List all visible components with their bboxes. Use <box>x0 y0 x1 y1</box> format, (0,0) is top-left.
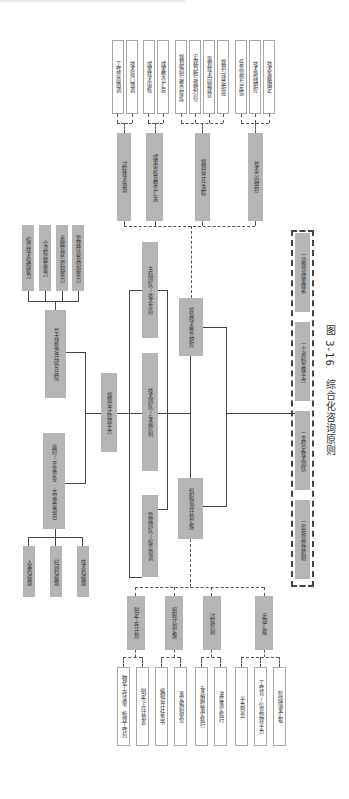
connector <box>202 123 203 133</box>
top-leaf: 宏观判断与规划引导 <box>189 40 201 114</box>
connector <box>82 537 83 546</box>
client-box: 政府/开发企业 大型建设项目 <box>43 433 65 529</box>
connector <box>279 657 280 667</box>
connector <box>62 291 63 301</box>
mgmt-team-box: 管理团队/综合协调 <box>142 495 158 577</box>
platform-box: 规划设计管理平台 <box>101 373 117 452</box>
connector <box>223 114 224 123</box>
connector <box>85 413 101 414</box>
institute-capability: 全过程统筹能力 <box>39 225 51 291</box>
figure-number: 图 3-16 <box>324 325 335 367</box>
connector <box>129 290 142 291</box>
connector <box>129 290 130 578</box>
connector <box>129 577 142 578</box>
connector <box>202 221 203 226</box>
top-leaf: 任务监管与反馈 <box>235 40 247 114</box>
connector <box>132 114 133 123</box>
branch-tech-direction: 技术方向把控 <box>248 133 263 221</box>
top-leaf: 规划编制与整合提炼 <box>175 40 187 114</box>
connector <box>269 114 270 123</box>
top-leaf: 策划技术问题建议 <box>203 40 215 114</box>
principle-item: 一支稳定技术团队 <box>295 411 310 490</box>
principle-item: 一项规范成果体系 <box>295 233 310 312</box>
cropped-header-strip <box>0 0 185 2</box>
bottom-leaf: 制定节点计划表 <box>136 667 149 746</box>
connector <box>135 587 264 588</box>
principle-item: 一个资料支撑平台 <box>295 322 310 401</box>
connector <box>155 221 156 226</box>
lead-team-box: 主持团队/技术支持 <box>142 242 158 338</box>
bottom-leaf: 阶段成果汇报 <box>273 667 286 746</box>
connector <box>161 657 162 667</box>
branch-process-control: 过程控制 <box>203 596 221 650</box>
connector <box>45 291 46 301</box>
connector <box>203 506 227 507</box>
top-leaf: 规划与建设衔接 <box>217 40 229 114</box>
connector <box>117 114 118 123</box>
connector <box>181 114 182 123</box>
connector <box>190 539 191 587</box>
bottom-leaf: 专项跟踪落实执行 <box>195 667 208 746</box>
connector <box>220 657 221 667</box>
bottom-leaf: 工作营/信息管理平台 <box>254 667 267 746</box>
connector <box>135 650 136 657</box>
connector <box>55 537 56 546</box>
bottom-leaf: 平台例会 <box>235 667 248 746</box>
top-leaf: 成果技术审核 <box>143 40 155 114</box>
connector <box>264 587 265 596</box>
bottom-leaf: 编制设计任务书 <box>155 667 168 746</box>
principle-item: 一套运营管理机制 <box>295 500 310 579</box>
top-leaf: 工作界面协调 <box>112 40 124 114</box>
connector <box>78 291 79 301</box>
connector <box>255 123 256 133</box>
branch-review-integration: 成果审核及整合汇总 <box>146 133 163 221</box>
connector <box>241 657 242 667</box>
connector <box>158 509 168 510</box>
connector <box>201 657 202 667</box>
connector <box>124 123 125 133</box>
connector <box>174 587 175 596</box>
connector <box>260 657 261 667</box>
connector <box>148 114 149 123</box>
institute-box: 华大建筑设计研究总院 <box>45 310 66 398</box>
connector <box>174 650 175 657</box>
connector <box>135 587 136 596</box>
connector <box>123 657 124 667</box>
institute-capability: 管理经验及创新能力 <box>72 225 84 291</box>
branch-regular-report: 定期汇报 <box>255 596 273 650</box>
top-leaf: 技术接口协调 <box>126 40 138 114</box>
connector <box>142 657 143 667</box>
connector <box>66 352 85 353</box>
connector <box>123 657 142 658</box>
connector <box>155 123 156 133</box>
value-control-box: 价值技术整合把控 <box>179 298 203 356</box>
top-leaf: 技术路线把控 <box>249 40 261 114</box>
connector <box>255 114 256 123</box>
connector <box>264 650 265 657</box>
client-need: 时间档级规 <box>50 546 62 597</box>
connector <box>191 226 192 298</box>
connector <box>158 413 191 414</box>
branch-implement: 组织计划实施 <box>165 596 183 650</box>
connector <box>241 114 242 123</box>
connector <box>211 587 212 596</box>
org-coord-box: 组织协调计划实施 <box>178 478 203 539</box>
institute-capability: 系统管理与控制能力 <box>56 225 68 291</box>
bottom-leaf: 物化工作清单、梳理工作包 <box>117 667 130 746</box>
connector <box>124 221 125 226</box>
connector <box>180 657 181 667</box>
connector <box>28 301 79 302</box>
bottom-leaf: 落实编制单位 <box>174 667 187 746</box>
top-leaf: 成果整合汇总 <box>157 40 169 114</box>
figure-caption: 图 3-16 综合化咨询原则 <box>322 325 337 456</box>
connector <box>28 291 29 301</box>
connector <box>211 650 212 657</box>
connector <box>163 114 164 123</box>
branch-planning-process: 规划设计全流程 <box>195 133 210 221</box>
connector <box>226 327 227 507</box>
connector <box>195 114 196 123</box>
connector <box>201 657 220 658</box>
connector <box>65 483 86 484</box>
connector <box>167 290 168 510</box>
institute-capability: 综合技术保障能力 <box>22 225 34 291</box>
